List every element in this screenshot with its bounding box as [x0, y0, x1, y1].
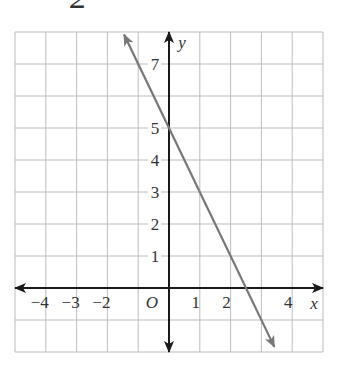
tick-labels: 123457−4−3−2124Oxy — [31, 33, 321, 313]
x-tick-label: 1 — [192, 293, 201, 312]
y-tick-label: 5 — [151, 119, 160, 138]
problem-number: 2 — [70, 0, 87, 15]
y-tick-label: 2 — [151, 215, 160, 234]
y-tick-label: 7 — [151, 55, 160, 74]
line-segment-lower — [199, 191, 274, 347]
coordinate-graph: 2 123457−4−3−2124Oxy — [0, 0, 337, 370]
y-tick-label: 3 — [151, 183, 160, 202]
line-segment-upper — [124, 35, 199, 191]
x-tick-label: −3 — [62, 293, 80, 312]
x-axis-label: x — [309, 294, 318, 313]
x-tick-label: 4 — [284, 293, 293, 312]
y-axis-label: y — [176, 33, 186, 52]
x-tick-label: −4 — [31, 293, 50, 312]
origin-label: O — [146, 293, 158, 312]
x-tick-label: 2 — [222, 293, 231, 312]
graph-svg: 2 123457−4−3−2124Oxy — [0, 0, 337, 370]
y-tick-label: 1 — [151, 247, 160, 266]
x-tick-label: −2 — [92, 293, 110, 312]
y-tick-label: 4 — [151, 151, 160, 170]
